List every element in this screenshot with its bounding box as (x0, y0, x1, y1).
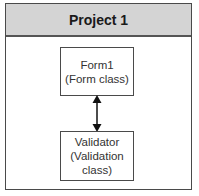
project-container: Project 1 Form1 (Form class) Validator (… (5, 3, 192, 190)
validator-name: Validator (75, 135, 120, 149)
validator-class-box: Validator (Validation class) (60, 131, 134, 181)
validator-type-line1: (Validation (70, 149, 124, 163)
project-title: Project 1 (6, 4, 191, 37)
validator-type-line2: class) (82, 163, 112, 177)
form1-class-box: Form1 (Form class) (60, 47, 134, 96)
form1-name: Form1 (80, 58, 113, 72)
bidirectional-arrow-icon (91, 95, 103, 132)
form1-type: (Form class) (65, 72, 129, 86)
